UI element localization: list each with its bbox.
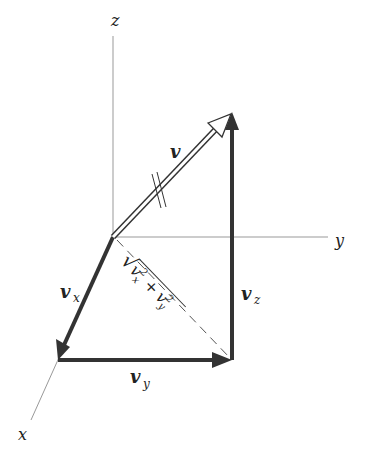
v-vector [113, 114, 231, 237]
vz-label: v z [241, 283, 261, 307]
vector-diagram: z y x v v x v z v y √ v x 2 + v y 2 [0, 0, 369, 452]
svg-text:v: v [130, 366, 141, 387]
vy-label: v y [130, 366, 150, 391]
svg-text:y: y [142, 377, 150, 391]
vx-vector [64, 237, 113, 345]
y-axis-label: y [334, 231, 345, 250]
svg-text:x: x [73, 291, 80, 305]
v-label: v [170, 141, 181, 162]
magnitude-label: √ v x 2 + v y 2 [116, 249, 188, 322]
vx-arrowhead-icon [56, 339, 70, 360]
z-axis-label: z [110, 11, 120, 30]
svg-text:v: v [241, 283, 252, 304]
vx-label: v x [60, 281, 80, 305]
vy-arrowhead-icon [212, 352, 232, 368]
diagram-svg: z y x v v x v z v y √ v x 2 + v y 2 [0, 0, 369, 452]
svg-text:v: v [60, 281, 71, 302]
svg-text:z: z [253, 293, 261, 307]
x-axis-label: x [18, 425, 27, 444]
